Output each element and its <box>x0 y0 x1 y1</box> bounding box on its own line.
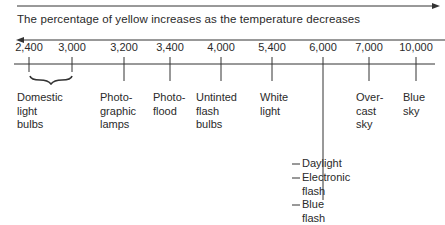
right-arrowhead-icon <box>432 3 440 9</box>
tick-label: 3,000 <box>58 41 86 53</box>
label-blue-flash: Blue flash <box>302 198 325 225</box>
tick-label: 4,000 <box>207 41 235 53</box>
caption: The percentage of yellow increases as th… <box>17 13 360 25</box>
tick-label: 6,000 <box>309 41 337 53</box>
label-photographic-lamps: Photo- graphic lamps <box>100 91 136 132</box>
brace-domestic-range <box>30 76 72 84</box>
label-photoflood: Photo- flood <box>153 91 185 118</box>
tick-label: 3,200 <box>110 41 138 53</box>
label-electronic-flash: Electronic flash <box>302 171 350 198</box>
tick-label: 3,400 <box>156 41 184 53</box>
label-overcast-sky: Over- cast sky <box>356 91 384 132</box>
label-blue-sky: Blue sky <box>403 91 425 118</box>
tick-label: 10,000 <box>399 41 433 53</box>
tick-label: 5,400 <box>258 41 286 53</box>
tick-label: 7,000 <box>355 41 383 53</box>
label-domestic-light-bulbs: Domestic light bulbs <box>17 91 63 132</box>
label-white-light: White light <box>260 91 288 118</box>
label-untinted-flash-bulbs: Untinted flash bulbs <box>196 91 237 132</box>
label-daylight: Daylight <box>302 157 342 171</box>
tick-label: 2,400 <box>15 41 43 53</box>
